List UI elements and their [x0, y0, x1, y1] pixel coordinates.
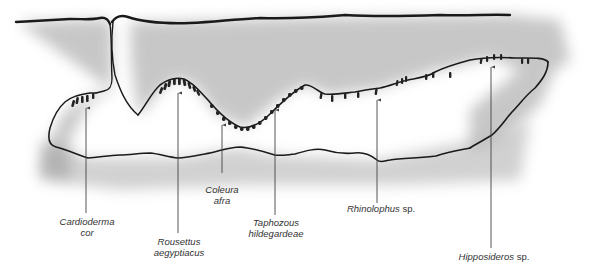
label-line-species: aegyptiacus	[136, 247, 222, 258]
label-line-suffix: sp.	[400, 203, 415, 214]
label-line-genus: Rousettus	[158, 236, 201, 247]
label-line-genus: Cardioderma	[60, 216, 115, 227]
label-rhinolophus-sp: Rhinolophus sp.	[331, 203, 431, 214]
label-line-genus: Rhinolophus	[347, 203, 400, 214]
label-line-genus: Taphozous	[253, 217, 299, 228]
label-line-genus: Hipposideros	[459, 251, 514, 262]
rock-stipple	[18, 15, 570, 190]
label-line-species: afra	[192, 195, 252, 206]
label-coleura-afra: Coleura afra	[192, 184, 252, 206]
cave-diagram: Cardioderma cor Rousettus aegyptiacus Co…	[0, 0, 613, 277]
label-line-species: hildegardeae	[236, 228, 316, 239]
label-line-species: cor	[44, 227, 130, 238]
label-hipposideros-sp: Hipposideros sp.	[444, 251, 544, 262]
label-line-genus: Coleura	[205, 184, 238, 195]
label-line-suffix: sp.	[514, 251, 529, 262]
label-rousettus-aegyptiacus: Rousettus aegyptiacus	[136, 236, 222, 258]
label-cardioderma-cor: Cardioderma cor	[44, 216, 130, 238]
label-taphozous-hildegardeae: Taphozous hildegardeae	[236, 217, 316, 239]
